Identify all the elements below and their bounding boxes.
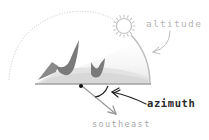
southeast-arrow [82, 86, 116, 114]
sun-icon [113, 15, 135, 37]
azimuth-label: azimuth [147, 97, 195, 109]
altitude-azimuth-diagram: altitude azimuth southeast [0, 0, 209, 140]
azimuth-pointer-arrow [112, 88, 146, 104]
observer-dot [79, 84, 83, 88]
altitude-label: altitude [146, 18, 202, 29]
southeast-label: southeast [92, 119, 151, 129]
altitude-pointer-arrow [153, 31, 170, 54]
azimuth-angle-arc [95, 86, 108, 97]
